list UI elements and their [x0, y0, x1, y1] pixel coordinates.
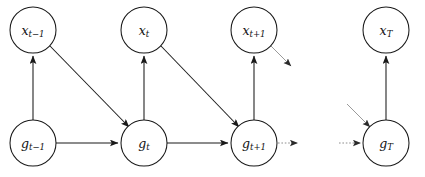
node-g-T[interactable]: gT — [363, 120, 409, 166]
node-x-T[interactable]: xT — [363, 7, 409, 53]
edge-x-t-to-g-tp1 — [161, 46, 239, 127]
edge-x-tm1-to-g-t — [50, 46, 129, 127]
node-g-t-minus-1[interactable]: gt−1 — [10, 120, 56, 166]
edge-layer — [33, 46, 386, 143]
diagram-canvas: xt−1 xt xt+1 xT gt−1 — [0, 0, 425, 177]
node-g-t[interactable]: gt — [121, 120, 167, 166]
node-x-t-minus-1[interactable]: xt−1 — [10, 7, 56, 53]
edge-x-tp1-continuation — [271, 46, 291, 66]
node-x-t-plus-1[interactable]: xt+1 — [231, 7, 277, 53]
edge-g-T-incoming-diagonal-continuation — [347, 104, 370, 127]
node-layer: xt−1 xt xt+1 xT gt−1 — [10, 7, 409, 166]
node-g-t-plus-1[interactable]: gt+1 — [231, 120, 277, 166]
graphical-model-svg: xt−1 xt xt+1 xT gt−1 — [0, 0, 425, 177]
node-x-t[interactable]: xt — [121, 7, 167, 53]
